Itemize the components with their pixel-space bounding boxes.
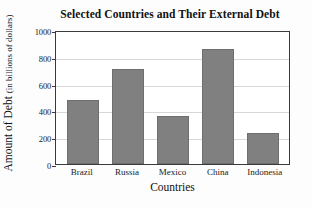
chart-title: Selected Countries and Their External De… — [45, 8, 295, 21]
y-axis-tick-label: 1000 — [35, 27, 51, 37]
x-axis-label-russia: Russia — [111, 167, 143, 181]
y-axis-title-text: Amount of Debt — [2, 96, 14, 171]
plot-area: 02004006008001000 — [55, 31, 290, 165]
x-axis-label-indonesia: Indonesia — [247, 167, 279, 181]
y-axis-title: Amount of Debt (in billions of dollars) — [2, 14, 14, 171]
bar-slot — [112, 32, 144, 164]
bar-series — [56, 32, 289, 164]
y-axis-tick-label: 800 — [39, 54, 51, 64]
bar-china[interactable] — [202, 49, 234, 164]
bar-slot — [157, 32, 189, 164]
bar-mexico[interactable] — [157, 116, 189, 164]
bar-chart-figure: Selected Countries and Their External De… — [0, 0, 312, 208]
x-axis-tick-labels: BrazilRussiaMexicoChinaIndonesia — [55, 167, 290, 181]
bar-slot — [247, 32, 279, 164]
x-axis-label-china: China — [202, 167, 234, 181]
bar-brazil[interactable] — [67, 100, 99, 164]
y-axis-title-unit: (in billions of dollars) — [4, 14, 14, 93]
bar-indonesia[interactable] — [247, 133, 279, 164]
y-axis-title-container: Amount of Debt (in billions of dollars) — [0, 14, 16, 172]
x-axis-label-brazil: Brazil — [66, 167, 98, 181]
y-axis-tick-label: 200 — [39, 134, 51, 144]
y-axis-tick-label: 400 — [39, 107, 51, 117]
bar-russia[interactable] — [112, 69, 144, 164]
bar-slot — [67, 32, 99, 164]
y-axis-tick-label: 600 — [39, 81, 51, 91]
x-axis-title: Countries — [55, 181, 290, 193]
bar-slot — [202, 32, 234, 164]
y-axis-tick-label: 0 — [47, 161, 51, 171]
x-axis-label-mexico: Mexico — [156, 167, 188, 181]
